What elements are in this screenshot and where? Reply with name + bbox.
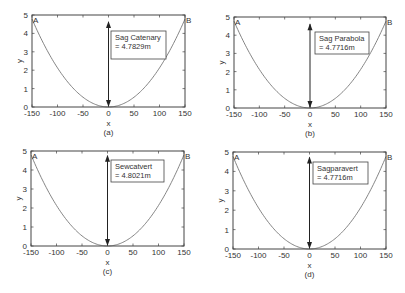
- point-label-a: A: [33, 16, 39, 25]
- x-tick-label: -50: [76, 248, 88, 257]
- x-tick-label: -50: [77, 109, 89, 118]
- point-label-a: A: [234, 153, 240, 162]
- x-tick-label: 0: [307, 251, 312, 260]
- x-axis-label: x: [107, 119, 111, 128]
- x-tick-label: 0: [106, 109, 111, 118]
- y-tick-label: 5: [24, 11, 29, 20]
- y-tick-label: 5: [226, 13, 231, 22]
- x-tick-label: 150: [379, 251, 393, 260]
- y-axis-label: y: [216, 199, 225, 203]
- x-tick-label: 150: [177, 248, 191, 257]
- subplot-d: -150-100-50050100150012345xy(d)ABSagpara…: [216, 148, 393, 279]
- subplot-a: -150-100-50050100150012345xy(a)ABSag Cat…: [15, 11, 192, 137]
- arrow-head-down-icon: [307, 242, 312, 249]
- y-tick-label: 4: [225, 167, 230, 176]
- arrow-head-down-icon: [106, 100, 111, 107]
- x-tick-label: 150: [178, 109, 192, 118]
- x-axis-label: x: [308, 120, 312, 129]
- arrow-head-up-icon: [308, 23, 313, 30]
- annotation-line2: = 4.7716m: [319, 43, 355, 52]
- annotation-line1: Sewcatvert: [115, 162, 153, 171]
- panel-label: (a): [104, 128, 114, 137]
- subplot-b: -150-100-50050100150012345xy(b)ABSag Par…: [217, 13, 393, 138]
- y-tick-label: 0: [225, 245, 230, 254]
- panel-label: (d): [305, 270, 315, 279]
- y-tick-label: 2: [226, 68, 231, 77]
- y-tick-label: 5: [225, 148, 230, 157]
- y-tick-label: 5: [23, 147, 28, 156]
- y-tick-label: 4: [24, 29, 29, 38]
- y-tick-label: 0: [24, 103, 29, 112]
- y-tick-label: 2: [24, 66, 29, 75]
- point-label-b: B: [185, 152, 190, 161]
- annotation-line1: Sag Parabola: [319, 34, 365, 43]
- y-tick-label: 3: [226, 49, 231, 58]
- y-axis-label: y: [14, 197, 23, 201]
- x-tick-label: 0: [308, 110, 313, 119]
- y-tick-label: 1: [225, 226, 230, 235]
- arrow-head-down-icon: [105, 239, 110, 246]
- x-tick-label: 0: [105, 248, 110, 257]
- annotation-line1: Sagparavert: [317, 164, 359, 173]
- x-tick-label: -100: [251, 110, 268, 119]
- arrow-head-up-icon: [106, 21, 111, 28]
- x-tick-label: -100: [49, 109, 66, 118]
- y-tick-label: 2: [225, 206, 230, 215]
- y-tick-label: 1: [226, 86, 231, 95]
- y-tick-label: 0: [23, 242, 28, 251]
- x-tick-label: 100: [153, 109, 167, 118]
- x-tick-label: 100: [354, 110, 368, 119]
- x-tick-label: 100: [152, 248, 166, 257]
- point-label-b: B: [186, 16, 191, 25]
- y-tick-label: 0: [226, 104, 231, 113]
- x-axis-label: x: [106, 258, 110, 267]
- annotation-line2: = 4.7829m: [115, 42, 151, 51]
- y-tick-label: 4: [226, 31, 231, 40]
- y-tick-label: 4: [23, 166, 28, 175]
- y-tick-label: 1: [24, 85, 29, 94]
- annotation-line2: = 4.8021m: [115, 171, 151, 180]
- x-axis-label: x: [308, 261, 312, 270]
- x-tick-label: -100: [48, 248, 65, 257]
- annotation-line1: Sag Catenary: [115, 33, 161, 42]
- y-axis-label: y: [15, 59, 24, 63]
- x-tick-label: -50: [279, 110, 291, 119]
- point-label-b: B: [387, 18, 392, 27]
- panel-label: (c): [103, 267, 113, 276]
- x-tick-label: 50: [130, 109, 139, 118]
- y-tick-label: 3: [23, 185, 28, 194]
- x-tick-label: -50: [278, 251, 290, 260]
- point-label-b: B: [387, 153, 392, 162]
- arrow-head-down-icon: [308, 101, 313, 108]
- figure-canvas: -150-100-50050100150012345xy(a)ABSag Cat…: [0, 0, 405, 293]
- y-tick-label: 3: [225, 187, 230, 196]
- point-label-a: A: [235, 18, 241, 27]
- y-tick-label: 1: [23, 223, 28, 232]
- x-tick-label: 50: [331, 251, 340, 260]
- y-tick-label: 2: [23, 204, 28, 213]
- x-tick-label: -100: [250, 251, 267, 260]
- x-tick-label: 100: [354, 251, 368, 260]
- arrow-head-up-icon: [307, 156, 312, 163]
- y-axis-label: y: [217, 61, 226, 65]
- point-label-a: A: [32, 152, 38, 161]
- panel-label: (b): [305, 129, 315, 138]
- subplot-c: -150-100-50050100150012345xy(c)ABSewcatv…: [14, 147, 191, 276]
- x-tick-label: 150: [379, 110, 393, 119]
- arrow-head-up-icon: [105, 155, 110, 162]
- y-tick-label: 3: [24, 48, 29, 57]
- annotation-line2: = 4.7716m: [317, 173, 353, 182]
- x-tick-label: 50: [331, 110, 340, 119]
- x-tick-label: 50: [129, 248, 138, 257]
